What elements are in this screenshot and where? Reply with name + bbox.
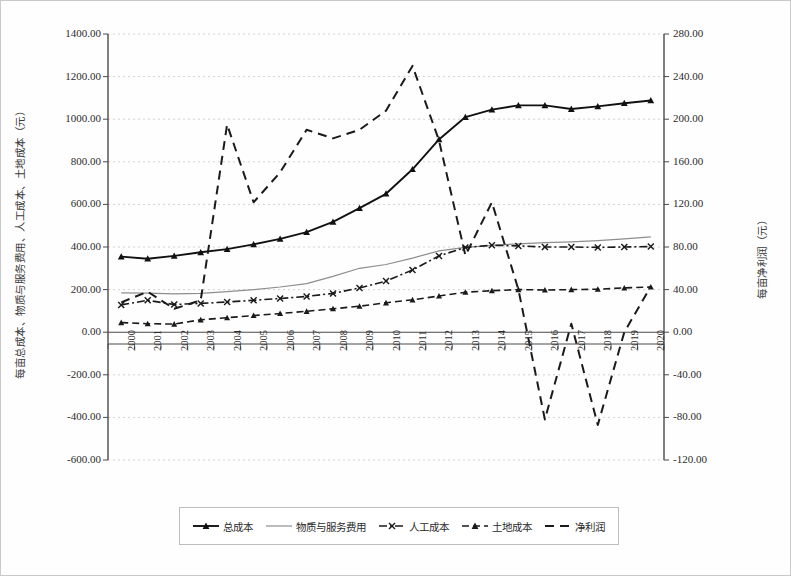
series-line — [121, 66, 651, 425]
y-axis-left-tick-label: 1000.00 — [39, 112, 101, 124]
legend-swatch-icon — [379, 521, 405, 531]
y-axis-right-tick-label: -40.00 — [673, 368, 735, 380]
data-point-marker — [648, 244, 654, 250]
plot-series-group — [118, 66, 654, 425]
legend-label: 物质与服务费用 — [296, 519, 366, 534]
x-axis-tick-label: 2015 — [523, 330, 534, 351]
x-axis-tick-label: 2005 — [258, 330, 269, 351]
chart-legend: 总成本物质与服务费用人工成本土地成本净利润 — [179, 507, 619, 545]
y-axis-left-tick-label: -400.00 — [39, 410, 101, 422]
gridlines — [103, 34, 669, 460]
x-axis-tick-label: 2018 — [602, 330, 613, 351]
y-axis-left-tick-label: 800.00 — [39, 155, 101, 167]
x-axis-tick-label: 2010 — [391, 330, 402, 351]
series-line — [121, 237, 651, 294]
x-axis-tick-label: 2002 — [179, 330, 190, 351]
y-axis-left-tick-label: 400.00 — [39, 240, 101, 252]
x-axis-tick-label: 2014 — [496, 330, 507, 351]
y-axis-right-tick-label: 160.00 — [673, 155, 735, 167]
x-axis-tick-label: 2001 — [152, 330, 163, 351]
x-axis-tick-label: 2016 — [549, 330, 560, 351]
y-axis-left-tick-label: 1400.00 — [39, 27, 101, 39]
legend-item-总成本[interactable]: 总成本 — [193, 519, 253, 534]
legend-swatch-icon — [266, 521, 292, 531]
legend-label: 总成本 — [223, 519, 253, 534]
x-axis-tick-label: 2012 — [443, 330, 454, 351]
y-axis-right-tick-label: 40.00 — [673, 283, 735, 295]
x-axis-tick-label: 2003 — [205, 330, 216, 351]
legend-item-土地成本[interactable]: 土地成本 — [462, 519, 532, 534]
y-axis-right-tick-label: 80.00 — [673, 240, 735, 252]
x-axis-tick-label: 2011 — [417, 330, 428, 351]
y-axis-right-tick-label: 280.00 — [673, 27, 735, 39]
chart-page: 每亩总成本、物质与服务费用、人工成本、土地成本（元） 每亩净利润（元） 1400… — [0, 0, 791, 576]
x-axis-tick-label: 2017 — [576, 330, 587, 351]
y-axis-right-tick-label: 0.00 — [673, 325, 735, 337]
legend-item-人工成本[interactable]: 人工成本 — [379, 519, 449, 534]
legend-label: 人工成本 — [409, 519, 449, 534]
x-axis-tick-label: 2008 — [338, 330, 349, 351]
y-axis-right-tick-label: -120.00 — [673, 453, 735, 465]
series-净利润 — [121, 66, 651, 425]
legend-label: 土地成本 — [492, 519, 532, 534]
y-axis-left-tick-label: 1200.00 — [39, 70, 101, 82]
x-axis-tick-label: 2019 — [629, 330, 640, 351]
legend-label: 净利润 — [575, 519, 605, 534]
legend-item-物质与服务费用[interactable]: 物质与服务费用 — [266, 519, 366, 534]
x-axis-tick-label: 2006 — [285, 330, 296, 351]
legend-swatch-icon — [545, 521, 571, 531]
x-axis-tick-label: 2013 — [470, 330, 481, 351]
y-axis-right-tick-label: 240.00 — [673, 70, 735, 82]
legend-swatch-icon — [462, 521, 488, 531]
x-axis-tick-label: 2004 — [232, 330, 243, 351]
y-axis-right-tick-label: 200.00 — [673, 112, 735, 124]
data-point-marker — [410, 267, 416, 273]
x-axis-tick-label: 2007 — [311, 330, 322, 351]
legend-item-净利润[interactable]: 净利润 — [545, 519, 605, 534]
y-axis-left-tick-label: 0.00 — [39, 325, 101, 337]
x-axis-tick-label: 2020 — [655, 330, 666, 351]
y-axis-left-tick-label: -200.00 — [39, 368, 101, 380]
y-axis-right-tick-label: -80.00 — [673, 410, 735, 422]
legend-swatch-icon — [193, 521, 219, 531]
series-line — [121, 101, 651, 259]
y-axis-left-tick-label: 200.00 — [39, 283, 101, 295]
y-axis-left-tick-label: 600.00 — [39, 197, 101, 209]
x-axis-tick-label: 2009 — [364, 330, 375, 351]
data-point-marker — [383, 278, 389, 284]
y-axis-right-tick-label: 120.00 — [673, 197, 735, 209]
y-axis-left-tick-label: -600.00 — [39, 453, 101, 465]
x-axis-tick-label: 2000 — [126, 330, 137, 351]
data-point-marker — [436, 253, 442, 259]
series-总成本 — [118, 97, 654, 262]
series-物质与服务费用 — [121, 237, 651, 294]
